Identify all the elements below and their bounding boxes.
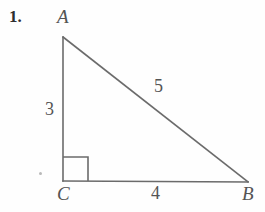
side-length-label-vertical: 3: [45, 100, 54, 118]
vertex-label-c: C: [57, 184, 70, 203]
side-length-label-horizontal: 4: [151, 184, 160, 202]
side-leg-horizontal: [63, 181, 248, 182]
side-length-label-hypotenuse: 5: [154, 77, 163, 95]
vertex-label-b: B: [242, 184, 254, 203]
triangle-diagram-svg: [0, 0, 265, 212]
vertex-label-a: A: [57, 7, 69, 26]
right-angle-marker: [63, 157, 88, 181]
problem-number: 1.: [9, 8, 22, 25]
side-hypotenuse: [63, 37, 248, 182]
triangle-figure: 1. A C B 3 4 5: [0, 0, 265, 212]
scan-speck-artifact: [39, 172, 42, 175]
